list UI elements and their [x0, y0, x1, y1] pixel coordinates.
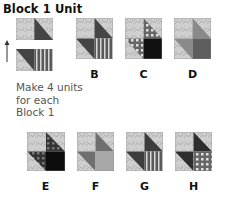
- instructions: Make 4 units for each Block 1: [16, 81, 83, 119]
- unit-bottom-pair: [16, 49, 53, 71]
- block-f: [77, 132, 114, 171]
- block-label-f: F: [77, 180, 114, 193]
- block-label-c: C: [125, 68, 162, 81]
- block-b: [76, 18, 113, 59]
- instructions-line-1: Make 4 units: [16, 81, 83, 94]
- block-d: [174, 18, 211, 59]
- up-arrow-icon: [4, 40, 10, 62]
- unit-top-pair: [16, 18, 53, 40]
- block-label-h: H: [175, 180, 212, 193]
- block-h: [175, 132, 212, 171]
- instructions-line-2: for each: [16, 94, 83, 107]
- block-label-g: G: [126, 180, 163, 193]
- page-title: Block 1 Unit: [3, 2, 82, 16]
- block-g: [126, 132, 163, 171]
- block-label-d: D: [174, 68, 211, 81]
- block-label-e: E: [27, 180, 64, 193]
- block-c: [125, 18, 162, 59]
- block-e: [27, 132, 65, 171]
- instructions-line-3: Block 1: [16, 106, 83, 119]
- block-label-b: B: [76, 68, 113, 81]
